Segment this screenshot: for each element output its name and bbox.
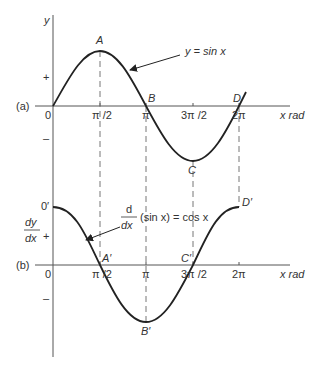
tick-b-pi2: π /2: [92, 268, 112, 280]
tick-a-pi: π: [142, 109, 150, 121]
sin-label-arrow: [130, 55, 180, 70]
projection-lines: [100, 51, 239, 322]
x-axis-label-b: x rad: [279, 268, 305, 280]
origin-a: 0: [45, 109, 51, 121]
tick-b-2pi: 2π: [232, 268, 246, 280]
tick-b-3pi2: 3π /2: [181, 268, 207, 280]
sine-derivative-diagram: y (a) 0 + – π /2 π 3π /2 2π x rad A B C …: [0, 0, 322, 369]
ddx-num: d: [126, 203, 132, 215]
point-a-prime: A′: [101, 252, 112, 264]
dx-label: dx: [25, 232, 37, 244]
plus-a: +: [43, 71, 49, 83]
y-axis-label: y: [43, 14, 51, 26]
plus-b: +: [43, 230, 49, 242]
point-c-prime: C′: [181, 252, 192, 264]
point-o-prime: 0′: [41, 200, 49, 212]
tick-a-3pi2: 3π /2: [181, 109, 207, 121]
dy-label: dy: [25, 216, 38, 228]
point-b-prime: B′: [141, 325, 151, 337]
tick-a-pi2: π /2: [92, 109, 112, 121]
x-axis-label-a: x rad: [279, 109, 305, 121]
panel-b-tag: (b): [16, 259, 29, 271]
origin-b: 0: [45, 268, 51, 280]
sin-curve-label: y = sin x: [184, 45, 226, 57]
point-a: A: [95, 34, 103, 46]
point-c: C: [188, 164, 196, 176]
cos-curve-label: (sin x) = cos x: [140, 211, 209, 223]
minus-b: –: [43, 292, 50, 304]
tick-b-pi: π: [142, 268, 150, 280]
point-d: D: [233, 92, 241, 104]
tick-a-2pi: 2π: [232, 109, 246, 121]
panel-a-tag: (a): [16, 100, 29, 112]
point-d-prime: D′: [242, 196, 253, 208]
minus-a: –: [43, 132, 50, 144]
point-b: B: [148, 92, 155, 104]
cos-label-arrow: [86, 227, 120, 240]
ddx-den: dx: [121, 219, 133, 231]
